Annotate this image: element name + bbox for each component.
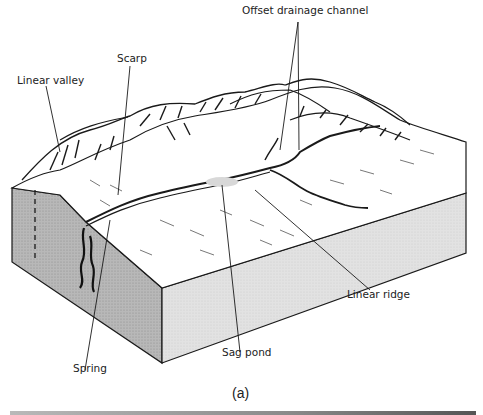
figure-caption: (a) [232, 385, 249, 401]
label-sag-pond: Sag pond [222, 346, 272, 358]
fault-landforms-diagram: Offset drainage channel Scarp Linear val… [0, 0, 483, 415]
label-spring: Spring [73, 362, 107, 374]
label-linear-valley: Linear valley [17, 74, 84, 86]
label-offset-drainage-channel: Offset drainage channel [242, 4, 368, 16]
label-scarp: Scarp [117, 52, 147, 64]
divider-bar [10, 411, 476, 415]
label-linear-ridge: Linear ridge [347, 288, 410, 300]
